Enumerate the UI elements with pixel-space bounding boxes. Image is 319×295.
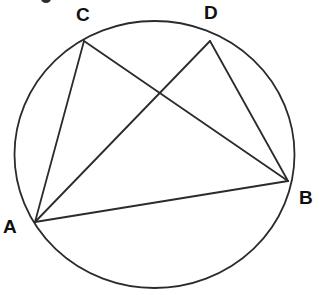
circle-circumference (15, 21, 295, 288)
geometry-canvas (0, 0, 319, 295)
vertex-label-b: B (299, 188, 313, 207)
chord-CB (84, 41, 288, 181)
circle-geometry-diagram: A B C D (0, 0, 319, 295)
vertex-label-a: A (3, 217, 17, 236)
vertex-label-c: C (76, 5, 90, 24)
chord-DB (210, 41, 288, 181)
chord-AB (35, 181, 288, 222)
vertex-label-d: D (204, 3, 218, 22)
chord-AC (35, 41, 84, 222)
